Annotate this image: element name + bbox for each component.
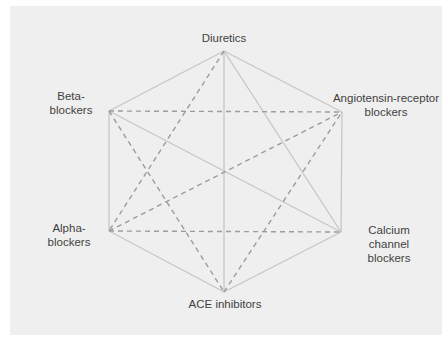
edge-ace-ccb [224,232,341,292]
label-line: Angiotensin-receptor [330,91,442,105]
edge-alpha-ccb [109,231,341,232]
dashed-edges [109,51,342,292]
edge-diuretics-arb [224,51,342,112]
node-label-diuretics: Diuretics [196,31,252,45]
edge-alpha-ace [109,231,224,292]
edge-diuretics-beta [109,51,224,111]
label-line: blockers [46,103,96,117]
node-label-alpha-blockers: Alpha- blockers [44,221,94,249]
edge-arb-ccb [341,112,342,232]
label-line: blockers [362,251,416,265]
label-line: channel [362,237,416,251]
node-label-angiotensin-receptor-blockers: Angiotensin-receptor blockers [330,91,442,119]
drug-interaction-graph [0,0,448,340]
label-line: Diuretics [202,32,247,44]
label-line: ACE inhibitors [189,298,262,310]
label-line: Calcium [362,223,416,237]
label-line: Beta- [46,89,96,103]
label-line: Alpha- [44,221,94,235]
label-line: blockers [330,105,442,119]
node-label-calcium-channel-blockers: Calcium channel blockers [362,223,416,265]
edge-beta-arb [109,111,342,112]
label-line: blockers [44,235,94,249]
node-label-ace-inhibitors: ACE inhibitors [186,297,264,311]
node-label-beta-blockers: Beta- blockers [46,89,96,117]
